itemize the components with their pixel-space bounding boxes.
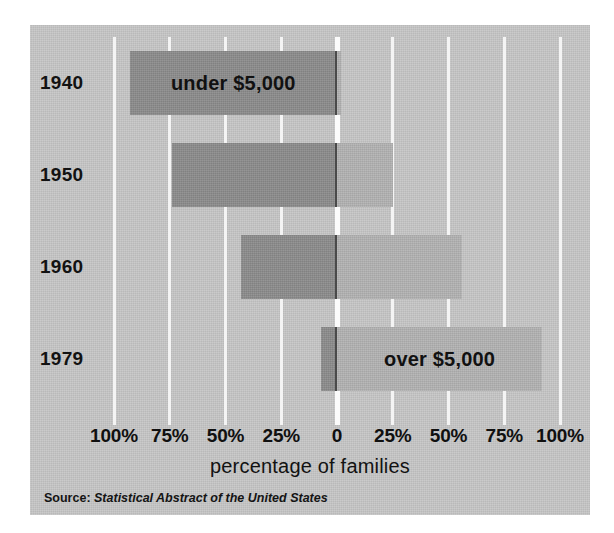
source-title: Statistical Abstract of the United State…	[94, 491, 328, 505]
x-axis-tick-label: 100%	[90, 425, 138, 447]
chart-row: 1960	[30, 221, 590, 313]
bar-annotation: under $5,000	[130, 72, 337, 95]
bar-segment-over	[337, 51, 341, 115]
bar-segment-under	[321, 327, 337, 391]
source-label: Source:	[44, 491, 91, 505]
row-label-year: 1960	[40, 256, 83, 278]
x-axis-tick-label: 50%	[430, 425, 467, 447]
source-note: Source: Statistical Abstract of the Unit…	[44, 491, 328, 505]
bar-segment-under	[172, 143, 337, 207]
row-label-year: 1940	[40, 72, 83, 94]
row-label-year: 1950	[40, 164, 83, 186]
bar-segment-over	[337, 235, 462, 299]
chart-row: 1979over $5,000	[30, 313, 590, 405]
x-axis-tick-label: 50%	[207, 425, 244, 447]
x-axis-tick-labels: 100%75%50%25%025%50%75%100%	[30, 425, 590, 451]
x-axis-tick-label: 25%	[374, 425, 411, 447]
x-axis-tick-label: 0	[332, 425, 342, 447]
bar-segment-under	[241, 235, 337, 299]
bar-segment-over	[337, 143, 393, 207]
x-axis-tick-label: 100%	[536, 425, 584, 447]
x-axis-title: percentage of families	[30, 455, 590, 478]
chart-row: 1950	[30, 129, 590, 221]
chart-row: 1940under $5,000	[30, 37, 590, 129]
chart-figure: 1940under $5,000195019601979over $5,000 …	[0, 0, 614, 533]
x-axis-tick-label: 75%	[151, 425, 188, 447]
x-axis-tick-label: 75%	[486, 425, 523, 447]
chart-panel: 1940under $5,000195019601979over $5,000 …	[30, 25, 590, 515]
x-axis-tick-label: 25%	[263, 425, 300, 447]
bar-annotation: over $5,000	[337, 348, 542, 371]
row-label-year: 1979	[40, 348, 83, 370]
